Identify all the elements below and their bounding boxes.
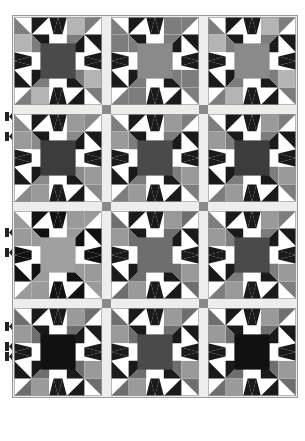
block-r4c1-corner-tr-q-bl [67,308,85,326]
cornerstone-square-r3c2 [199,299,208,308]
block-r1c1-center-square [40,43,75,78]
block-r4c3-corner-br-q-bl [278,361,296,379]
block-r2c2-corner-bl-q-bl [129,184,147,202]
block-r1c3-corner-tr-q-bl [261,17,279,35]
block-r1c2-corner-tl-q-bl [111,35,129,53]
block-r2c2-corner-tl-q-bl [111,132,129,150]
block-r3c1-center-square [40,237,75,272]
alignment-tick-3 [5,248,9,257]
block-r1c1-corner-bl-q-bl [32,87,50,105]
block-r2c1 [14,114,102,202]
block-r2c1-corner-tr-q-bl [67,114,85,132]
block-r2c2 [111,114,199,202]
block-r1c3-center-square [234,43,269,78]
quilt-diagram-canvas [0,0,305,441]
cornerstone-square-r2c2 [199,202,208,211]
block-r2c2-corner-tr-q-bl [164,114,182,132]
block-r2c3-corner-tr-q-bl [261,114,279,132]
cornerstone-square-r2c1 [102,202,111,211]
block-r4c2-corner-tl-q-bl [111,326,129,344]
alignment-tick-2 [5,228,9,237]
block-r2c1-corner-bl-q-bl [32,184,50,202]
block-r3c2-corner-tl-q-bl [111,229,129,247]
block-r3c3-corner-tl-q-bl [208,229,226,247]
quilt-pattern-svg [0,0,305,441]
block-r1c3-corner-tl-q-bl [208,35,226,53]
block-r3c1-corner-tr-q-bl [67,211,85,229]
block-r4c2-corner-tr-q-bl [164,308,182,326]
block-r3c2-corner-br-q-bl [181,264,199,282]
alignment-tick-6 [5,352,9,361]
block-r4c1 [14,308,102,396]
horizontal-sashing-3 [14,299,296,308]
block-r2c2-center-square [137,140,172,175]
alignment-tick-0 [5,112,9,121]
block-r4c3-corner-bl-q-bl [226,378,244,396]
block-r2c1-corner-tl-q-bl [14,132,32,150]
block-r1c2-corner-br-q-bl [181,70,199,88]
block-r4c1-corner-tl-q-bl [14,326,32,344]
block-r3c3-center-square [234,237,269,272]
block-r1c2-corner-bl-q-bl [129,87,147,105]
block-r2c3 [208,114,296,202]
block-r3c3-corner-br-q-bl [278,264,296,282]
alignment-tick-1 [5,132,9,141]
block-r1c1 [14,17,102,105]
block-r1c3-corner-br-q-bl [278,70,296,88]
block-r4c3 [208,308,296,396]
block-r3c1-corner-tl-q-bl [14,229,32,247]
block-r1c2-center-square [137,43,172,78]
block-r4c3-center-square [234,334,269,369]
horizontal-sashing-1 [14,105,296,114]
block-r4c1-corner-bl-q-bl [32,378,50,396]
block-r4c3-corner-tl-q-bl [208,326,226,344]
block-r1c1-corner-br-q-bl [84,70,102,88]
block-r2c1-center-square [40,140,75,175]
cornerstone-square-r3c1 [102,299,111,308]
block-r3c3-corner-bl-q-bl [226,281,244,299]
block-r1c1-corner-tl-q-bl [14,35,32,53]
block-r4c2-center-square [137,334,172,369]
block-r1c3-corner-bl-q-bl [226,87,244,105]
block-r3c1 [14,211,102,299]
horizontal-sashing-2 [14,202,296,211]
block-r4c1-center-square [40,334,75,369]
alignment-tick-5 [5,342,9,351]
block-r4c2-corner-bl-q-bl [129,378,147,396]
block-r3c3-corner-tr-q-bl [261,211,279,229]
block-r4c2 [111,308,199,396]
block-r1c3 [208,17,296,105]
block-r4c1-corner-br-q-bl [84,361,102,379]
block-r2c3-corner-br-q-bl [278,167,296,185]
block-r1c2 [111,17,199,105]
block-r4c2-corner-br-q-bl [181,361,199,379]
block-r3c2-center-square [137,237,172,272]
cornerstone-square-r1c2 [199,105,208,114]
block-r2c2-corner-br-q-bl [181,167,199,185]
block-r3c2 [111,211,199,299]
block-r2c3-corner-bl-q-bl [226,184,244,202]
block-r4c3-corner-tr-q-bl [261,308,279,326]
block-r3c2-corner-bl-q-bl [129,281,147,299]
block-r3c3 [208,211,296,299]
block-r3c1-corner-bl-q-bl [32,281,50,299]
alignment-tick-4 [5,322,9,331]
block-r3c1-corner-br-q-bl [84,264,102,282]
block-r2c3-center-square [234,140,269,175]
cornerstone-square-r1c1 [102,105,111,114]
block-r1c2-corner-tr-q-bl [164,17,182,35]
block-r2c3-corner-tl-q-bl [208,132,226,150]
block-r1c1-corner-tr-q-bl [67,17,85,35]
block-r3c2-corner-tr-q-bl [164,211,182,229]
block-r2c1-corner-br-q-bl [84,167,102,185]
